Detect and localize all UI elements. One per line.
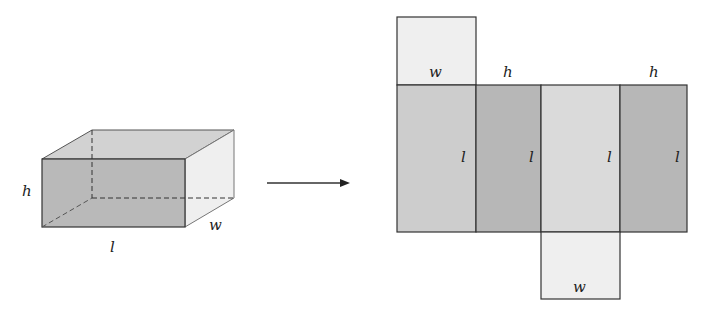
net-length-label-3: l (607, 148, 612, 166)
net-height-label-1: h (503, 63, 513, 81)
prism: h l w (22, 130, 234, 256)
prism-height-label: h (22, 182, 32, 200)
net-length-label-4: l (675, 148, 680, 166)
prism-front-face (42, 159, 185, 227)
net: w h h l l l l w (397, 17, 687, 299)
net-bottom-width-label: w (573, 278, 586, 296)
arrow-right-icon (267, 179, 350, 187)
net-length-label-2: l (529, 148, 534, 166)
net-height-label-2: h (649, 63, 659, 81)
prism-net-diagram: h l w w h h l l l l w (0, 0, 707, 319)
prism-length-label: l (110, 238, 115, 256)
net-length-label-1: l (461, 148, 466, 166)
net-top-width-label: w (429, 63, 442, 81)
prism-width-label: w (209, 216, 222, 234)
